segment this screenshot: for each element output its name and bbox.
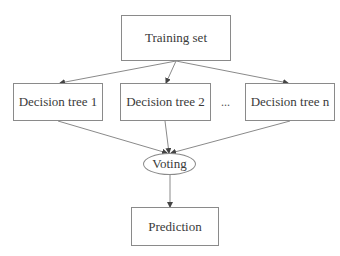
decision-tree-2-label: Decision tree 2 bbox=[126, 94, 205, 110]
training-set-node: Training set bbox=[121, 15, 231, 61]
edge-tree1-voting bbox=[58, 121, 167, 153]
edge-training-tree1 bbox=[60, 61, 176, 83]
voting-label: Voting bbox=[152, 156, 186, 172]
decision-tree-1-label: Decision tree 1 bbox=[19, 94, 98, 110]
edge-tree2-voting bbox=[165, 121, 169, 153]
edge-training-treen bbox=[176, 61, 288, 83]
prediction-node: Prediction bbox=[131, 207, 219, 246]
edge-training-tree2 bbox=[166, 61, 176, 83]
training-set-label: Training set bbox=[145, 30, 207, 46]
ellipsis-label: ... bbox=[221, 95, 230, 110]
decision-tree-n-label: Decision tree n bbox=[251, 94, 330, 110]
decision-tree-n-node: Decision tree n bbox=[245, 83, 335, 121]
edge-treen-voting bbox=[171, 121, 290, 153]
voting-node: Voting bbox=[143, 153, 196, 175]
decision-tree-1-node: Decision tree 1 bbox=[13, 83, 103, 121]
prediction-label: Prediction bbox=[148, 219, 201, 235]
decision-tree-2-node: Decision tree 2 bbox=[120, 83, 211, 121]
